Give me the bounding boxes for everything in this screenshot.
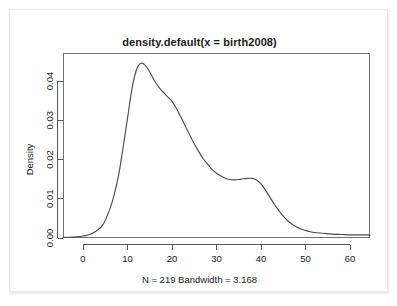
y-axis-label: Density [24,143,35,175]
plot-title: density.default(x = birth2008) [122,36,277,48]
x-tick-label-4: 40 [256,253,267,264]
y-axis-tick-labels: 0.00 0.01 0.02 0.03 0.04 [44,72,55,248]
x-tick-label-0: 0 [80,253,85,264]
y-tick-label-3: 0.03 [44,111,55,130]
x-tick-label-1: 10 [122,253,133,264]
x-axis-ticks [83,245,350,251]
y-tick-label-1: 0.01 [44,190,55,209]
y-tick-label-2: 0.02 [44,150,55,169]
y-axis: 0.00 0.01 0.02 0.03 0.04 Density [24,72,63,248]
plot-subtitle: N = 219 Bandwidth = 3.168 [142,274,257,285]
density-plot-svg: density.default(x = birth2008) 0.00 [10,10,389,293]
y-tick-label-0: 0.00 [44,229,55,248]
x-axis-tick-labels: 0 10 20 30 40 50 60 [80,253,355,264]
y-axis-ticks [58,81,64,238]
y-tick-label-4: 0.04 [44,72,55,91]
x-axis: 0 10 20 30 40 50 60 [80,245,355,265]
figure-card: density.default(x = birth2008) 0.00 [9,9,388,292]
plot-area: density.default(x = birth2008) 0.00 [10,10,389,293]
screenshot-root: density.default(x = birth2008) 0.00 [0,0,397,306]
x-tick-label-5: 50 [300,253,311,264]
x-tick-label-6: 60 [345,253,356,264]
density-curve [63,63,370,237]
x-tick-label-2: 20 [167,253,178,264]
x-tick-label-3: 30 [211,253,222,264]
